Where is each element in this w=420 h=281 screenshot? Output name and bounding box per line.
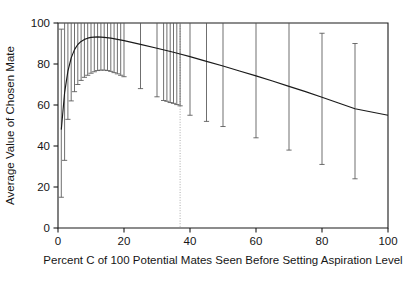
error-bar — [161, 23, 166, 100]
error-bar — [168, 23, 173, 103]
error-bar — [112, 23, 117, 73]
error-bar — [138, 23, 143, 89]
y-axis-title: Average Value of Chosen Mate — [4, 46, 16, 205]
y-axis-tick-label: 60 — [37, 99, 50, 111]
error-bar — [79, 23, 84, 80]
error-bar — [95, 23, 100, 71]
y-axis-tick-label: 20 — [37, 181, 50, 193]
error-bar — [75, 23, 80, 85]
error-bar — [105, 23, 110, 71]
error-bar — [88, 23, 93, 73]
error-bar — [102, 23, 107, 70]
y-axis-tick-label: 40 — [37, 140, 50, 152]
error-bar — [72, 23, 77, 92]
x-axis-tick-label: 80 — [316, 235, 329, 247]
x-axis-tick-label: 40 — [184, 235, 197, 247]
error-bar — [85, 23, 90, 75]
chart-canvas: 020406080100020406080100Percent C of 100… — [0, 0, 420, 281]
error-bar — [174, 23, 179, 105]
error-bar — [108, 23, 113, 71]
error-bar — [171, 23, 176, 103]
error-bar — [319, 33, 324, 164]
error-bar — [92, 23, 97, 72]
data-curve — [61, 37, 388, 130]
error-bar — [154, 23, 159, 97]
x-axis-tick-label: 60 — [250, 235, 263, 247]
error-bar — [69, 23, 74, 101]
error-bar — [115, 23, 120, 74]
error-bar — [204, 23, 209, 121]
error-bar — [253, 23, 258, 138]
x-axis-title: Percent C of 100 Potential Mates Seen Be… — [43, 254, 402, 266]
x-axis-tick-label: 100 — [378, 235, 397, 247]
error-bar — [82, 23, 87, 77]
y-axis-tick-label: 80 — [37, 58, 50, 70]
chart-figure: 020406080100020406080100Percent C of 100… — [0, 0, 420, 281]
error-bar — [187, 23, 192, 115]
error-bar — [121, 23, 126, 77]
y-axis-tick-label: 0 — [44, 222, 50, 234]
error-bar — [118, 23, 123, 75]
error-bar — [352, 44, 357, 179]
error-bar — [98, 23, 103, 70]
error-bar — [220, 23, 225, 127]
x-axis-tick-label: 0 — [55, 235, 61, 247]
y-axis-tick-label: 100 — [31, 17, 50, 29]
error-bar — [164, 23, 169, 101]
error-bar — [178, 23, 183, 106]
x-axis-tick-label: 20 — [118, 235, 131, 247]
